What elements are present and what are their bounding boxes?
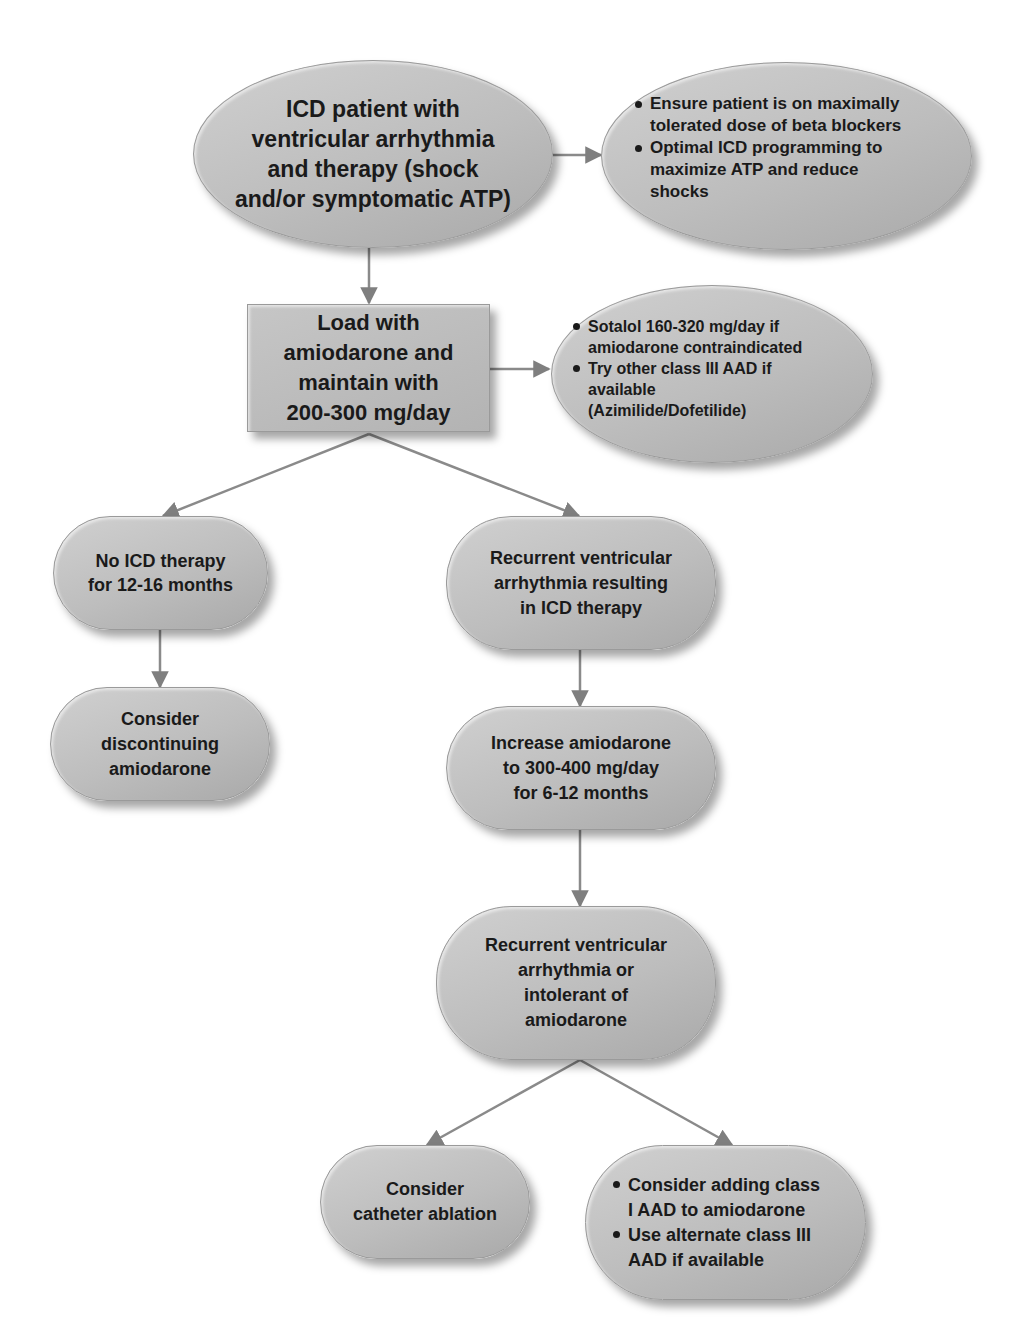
node-increase: Increase amiodarone to 300-400 mg/day fo… <box>446 706 716 830</box>
node-increase-text: Increase amiodarone to 300-400 mg/day fo… <box>491 731 671 806</box>
add-class-bullets: Consider adding class I AAD to amiodaron… <box>610 1173 820 1273</box>
bullet-item: Use alternate class III AAD if available <box>610 1223 820 1273</box>
node-no-therapy: No ICD therapy for 12-16 months <box>53 516 268 630</box>
edge-recurrent-intolerant-to-ablation <box>427 1060 580 1145</box>
bullet-item: Try other class III AAD if available (Az… <box>570 358 802 421</box>
node-ablation-text: Consider catheter ablation <box>353 1177 497 1227</box>
node-load-side: Sotalol 160-320 mg/day if amiodarone con… <box>551 285 873 463</box>
node-start-side: Ensure patient is on maximally tolerated… <box>601 62 972 250</box>
bullet-item: Ensure patient is on maximally tolerated… <box>632 93 901 137</box>
start-side-bullets: Ensure patient is on maximally tolerated… <box>632 93 901 203</box>
node-discontinue-text: Consider discontinuing amiodarone <box>101 707 219 782</box>
node-no-therapy-text: No ICD therapy for 12-16 months <box>88 549 233 597</box>
node-load: Load with amiodarone and maintain with 2… <box>247 304 490 432</box>
node-recurrent-intolerant-text: Recurrent ventricular arrhythmia or into… <box>485 933 667 1033</box>
edge-recurrent-intolerant-to-add-class <box>580 1060 732 1145</box>
node-recurrent: Recurrent ventricular arrhythmia resulti… <box>446 516 716 650</box>
node-ablation: Consider catheter ablation <box>320 1145 530 1259</box>
node-start: ICD patient with ventricular arrhythmia … <box>193 60 553 248</box>
node-add-class: Consider adding class I AAD to amiodaron… <box>585 1145 866 1300</box>
node-load-text: Load with amiodarone and maintain with 2… <box>284 308 454 428</box>
bullet-item: Optimal ICD programming to maximize ATP … <box>632 137 901 203</box>
node-recurrent-text: Recurrent ventricular arrhythmia resulti… <box>490 546 672 621</box>
node-start-text: ICD patient with ventricular arrhythmia … <box>235 94 511 214</box>
edge-load-to-no-therapy <box>163 434 369 516</box>
node-discontinue: Consider discontinuing amiodarone <box>50 687 270 801</box>
load-side-bullets: Sotalol 160-320 mg/day if amiodarone con… <box>570 316 802 421</box>
bullet-item: Consider adding class I AAD to amiodaron… <box>610 1173 820 1223</box>
edge-load-to-recurrent <box>369 434 579 516</box>
bullet-item: Sotalol 160-320 mg/day if amiodarone con… <box>570 316 802 358</box>
node-recurrent-intolerant: Recurrent ventricular arrhythmia or into… <box>436 906 716 1060</box>
